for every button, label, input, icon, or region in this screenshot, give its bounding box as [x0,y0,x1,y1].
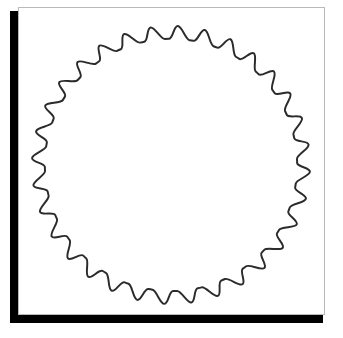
figure-card [18,7,325,315]
gear-outline-path [32,26,310,304]
gear-diagram [19,8,324,314]
figure-canvas [0,0,343,338]
